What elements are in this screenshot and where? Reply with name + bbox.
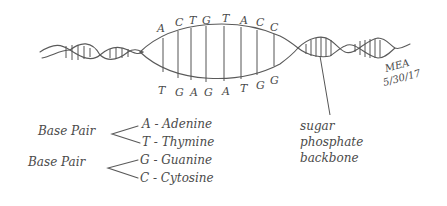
svg-text:T: T [158, 84, 167, 97]
svg-text:phosphate: phosphate [300, 135, 363, 149]
svg-text:G: G [256, 79, 265, 92]
svg-text:backbone: backbone [300, 151, 359, 165]
svg-text:G: G [270, 74, 279, 87]
svg-text:C: C [256, 16, 265, 29]
legend-item: T - Thymine [142, 135, 214, 149]
legend-group-gc: Base Pair G - Guanine C - Cytosine [27, 153, 214, 185]
svg-text:G: G [204, 86, 213, 99]
legend-item: A - Adenine [141, 117, 212, 131]
legend-item: C - Cytosine [140, 171, 214, 185]
svg-text:C: C [175, 16, 184, 29]
base-pair-legend: Base Pair A - Adenine T - Thymine Base P… [27, 117, 214, 185]
svg-text:T: T [189, 14, 198, 27]
legend-group-label: Base Pair [27, 155, 87, 169]
backbone-pointer-line [320, 56, 330, 115]
dna-diagram: A C T G T A C C T G A G A T G G MEA 5/30… [0, 0, 447, 206]
svg-text:G: G [175, 86, 184, 99]
backbone-label: sugar phosphate backbone [300, 119, 363, 165]
right-helix-twists [298, 37, 410, 58]
legend-group-at: Base Pair A - Adenine T - Thymine [37, 117, 214, 149]
svg-text:G: G [202, 14, 211, 27]
legend-group-label: Base Pair [37, 124, 97, 138]
svg-text:A: A [221, 85, 230, 98]
svg-text:T: T [222, 12, 231, 25]
signature: MEA 5/30/17 [382, 57, 423, 88]
svg-text:A: A [189, 86, 198, 99]
left-helix-twists [40, 44, 143, 60]
svg-text:A: A [156, 22, 165, 35]
svg-text:sugar: sugar [300, 119, 336, 133]
bottom-strand-bases: T G A G A T G G [158, 74, 279, 99]
svg-text:T: T [240, 82, 249, 95]
legend-item: G - Guanine [140, 153, 212, 167]
svg-text:C: C [270, 21, 279, 34]
svg-text:A: A [239, 14, 248, 27]
